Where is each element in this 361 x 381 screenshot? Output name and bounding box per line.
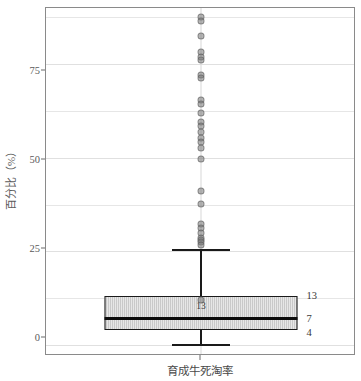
boxplot-figure: 百分比（%） 0 25 50 75 13 13 7 4 育成牛死淘率 (0, 0, 361, 381)
y-tick-label-0: 0 (14, 332, 40, 343)
outlier-point (198, 155, 205, 162)
outlier-point (198, 17, 205, 24)
y-tick-label-group: 0 25 50 75 (14, 0, 40, 381)
outlier-point (198, 296, 205, 303)
upper-whisker-cap (172, 249, 230, 251)
outlier-point (198, 188, 205, 195)
x-axis-label: 育成牛死淘率 (45, 362, 355, 378)
median-line (105, 317, 298, 321)
x-tick-mark (200, 355, 201, 360)
box-plot-group: 13 (46, 8, 354, 354)
upper-whisker (200, 249, 202, 296)
outlier-point (198, 109, 205, 116)
outlier-point (198, 74, 205, 81)
outlier-point (198, 100, 205, 107)
y-tick-label-75: 75 (14, 65, 40, 76)
outlier-point (198, 144, 205, 151)
y-tick-label-25: 25 (14, 243, 40, 254)
lower-whisker-cap (172, 344, 230, 346)
outlier-point (198, 33, 205, 40)
outlier-point (198, 241, 205, 248)
plot-panel: 13 (45, 7, 355, 355)
outlier-point (198, 201, 205, 208)
y-tick-label-50: 50 (14, 154, 40, 165)
outlier-point (198, 56, 205, 63)
lower-whisker (200, 330, 202, 344)
